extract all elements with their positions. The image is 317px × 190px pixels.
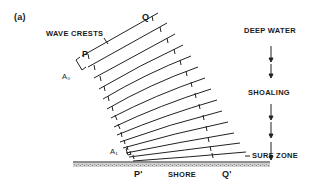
shoaling-arrows [269, 46, 273, 160]
orthogonal-ticks [88, 16, 213, 159]
shoaling-label: SHOALING [248, 88, 290, 97]
a1-label: A₁ [110, 147, 118, 156]
point-p-label: P [82, 49, 88, 59]
shore-label: SHORE [168, 170, 196, 179]
a0-label: A₀ [62, 72, 71, 81]
wave-crests [82, 13, 246, 161]
surf-zone-label: SURF ZONE [252, 151, 298, 160]
wave-crests-label: WAVE CRESTS [46, 29, 103, 38]
shore-band [73, 162, 270, 167]
point-q-label: Q [142, 12, 149, 22]
q-prime-label: Q' [222, 169, 232, 179]
p-prime-label: P' [134, 169, 143, 179]
panel-label: (a) [14, 12, 26, 22]
deep-water-label: DEEP WATER [244, 26, 296, 35]
